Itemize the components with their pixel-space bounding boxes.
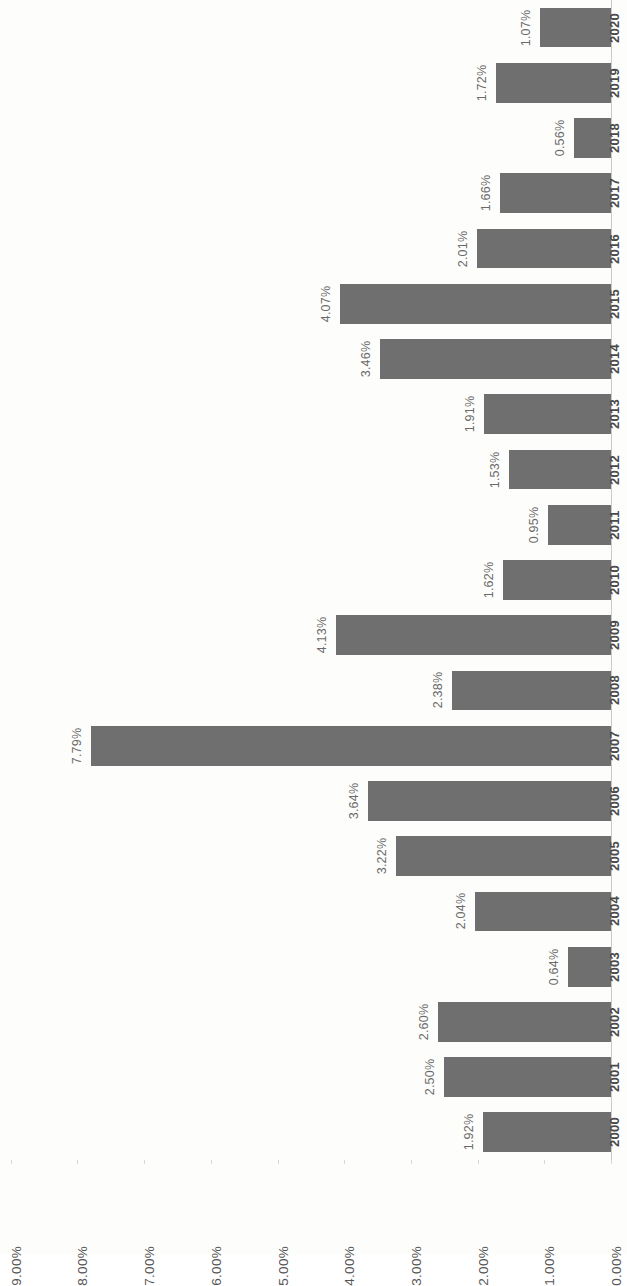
category-label-2015: 2015 [607, 289, 622, 319]
bar-row: 3.64%2006 [0, 781, 627, 821]
tick-label-3-00pct: 3.00% [408, 1246, 423, 1286]
bar-value-label-2005: 3.22% [375, 838, 389, 874]
category-label-2013: 2013 [607, 399, 622, 429]
category-label-2011: 2011 [607, 510, 622, 539]
bar-row: 1.92%2000 [0, 1112, 627, 1152]
tick-label-9-00pct: 9.00% [8, 1246, 23, 1286]
bar-value-label-2010: 1.62% [482, 562, 496, 598]
bar-value-label-2019: 1.72% [475, 65, 489, 101]
category-label-2009: 2009 [607, 620, 622, 650]
bar-2009 [336, 615, 611, 655]
bar-row: 1.53%2012 [0, 450, 627, 490]
bar-2008 [452, 671, 611, 711]
bar-2007 [91, 726, 611, 766]
category-label-2016: 2016 [607, 233, 622, 263]
bar-row: 0.64%2003 [0, 947, 627, 987]
bar-value-label-2015: 4.07% [319, 286, 333, 322]
bar-2010 [503, 560, 611, 600]
bar-2002 [438, 1002, 611, 1042]
tick-label-0-00pct: 0.00% [609, 1246, 624, 1286]
bar-value-label-2018: 0.56% [553, 120, 567, 156]
bar-2003 [568, 947, 611, 987]
bar-value-label-2014: 3.46% [359, 341, 373, 377]
tick-mark [344, 1160, 345, 1164]
bar-value-label-2020: 1.07% [519, 9, 533, 45]
tick-label-7-00pct: 7.00% [142, 1246, 157, 1286]
bar-row: 1.72%2019 [0, 63, 627, 103]
category-label-2003: 2003 [607, 952, 622, 982]
category-label-2006: 2006 [607, 786, 622, 816]
category-label-2018: 2018 [607, 123, 622, 153]
bar-row: 1.91%2013 [0, 394, 627, 434]
plot-area: 1.07%20201.72%20190.56%20181.66%20172.01… [0, 0, 627, 1160]
bar-value-label-2000: 1.92% [462, 1114, 476, 1150]
tick-mark [611, 1160, 612, 1164]
bar-value-label-2001: 2.50% [423, 1059, 437, 1095]
bar-value-label-2004: 2.04% [454, 893, 468, 929]
tick-mark [478, 1160, 479, 1164]
tick-mark [144, 1160, 145, 1164]
bar-value-label-2016: 2.01% [456, 230, 470, 266]
bar-2011 [548, 505, 611, 545]
category-label-2007: 2007 [607, 731, 622, 761]
tick-mark [278, 1160, 279, 1164]
bar-2020 [540, 8, 611, 48]
bar-row: 3.22%2005 [0, 836, 627, 876]
bar-2015 [340, 284, 611, 324]
category-label-2014: 2014 [607, 344, 622, 374]
bar-row: 0.56%2018 [0, 118, 627, 158]
bar-2004 [475, 892, 611, 932]
bar-row: 2.01%2016 [0, 229, 627, 269]
bar-row: 2.04%2004 [0, 892, 627, 932]
category-label-2012: 2012 [607, 454, 622, 484]
bar-row: 3.46%2014 [0, 339, 627, 379]
bar-2001 [444, 1057, 611, 1097]
bar-row: 4.07%2015 [0, 284, 627, 324]
bar-2018 [574, 118, 611, 158]
category-label-2005: 2005 [607, 841, 622, 871]
tick-label-4-00pct: 4.00% [342, 1246, 357, 1286]
bar-row: 1.07%2020 [0, 8, 627, 48]
bar-2013 [484, 394, 611, 434]
category-label-2017: 2017 [607, 178, 622, 208]
category-label-2002: 2002 [607, 1007, 622, 1037]
bar-2000 [483, 1112, 611, 1152]
bar-row: 4.13%2009 [0, 615, 627, 655]
tick-label-1-00pct: 1.00% [542, 1246, 557, 1286]
tick-mark [11, 1160, 12, 1164]
tick-mark [211, 1160, 212, 1164]
bar-value-label-2002: 2.60% [417, 1004, 431, 1040]
bar-value-label-2012: 1.53% [488, 451, 502, 487]
category-label-2001: 2001 [607, 1062, 622, 1092]
bar-value-label-2008: 2.38% [431, 672, 445, 708]
tick-label-6-00pct: 6.00% [208, 1246, 223, 1286]
category-label-2008: 2008 [607, 675, 622, 705]
category-label-2004: 2004 [607, 896, 622, 926]
bar-row: 0.95%2011 [0, 505, 627, 545]
bar-2006 [368, 781, 611, 821]
tick-label-5-00pct: 5.00% [275, 1246, 290, 1286]
bar-2014 [380, 339, 611, 379]
category-label-2010: 2010 [607, 565, 622, 595]
tick-mark [544, 1160, 545, 1164]
bar-row: 7.79%2007 [0, 726, 627, 766]
bar-value-label-2017: 1.66% [479, 175, 493, 211]
bar-value-label-2009: 4.13% [315, 617, 329, 653]
bar-value-label-2007: 7.79% [70, 727, 84, 763]
value-axis-tick-strip: 9.00%8.00%7.00%6.00%5.00%4.00%3.00%2.00%… [0, 1160, 627, 1254]
bar-value-label-2011: 0.95% [527, 507, 541, 543]
bar-row: 1.62%2010 [0, 560, 627, 600]
tick-mark [411, 1160, 412, 1164]
bar-value-label-2006: 3.64% [347, 783, 361, 819]
bar-row: 2.38%2008 [0, 671, 627, 711]
bar-2019 [496, 63, 611, 103]
tick-mark [77, 1160, 78, 1164]
tick-label-8-00pct: 8.00% [75, 1246, 90, 1286]
category-label-2000: 2000 [607, 1117, 622, 1147]
tick-label-2-00pct: 2.00% [475, 1246, 490, 1286]
bar-row: 1.66%2017 [0, 173, 627, 213]
bar-2017 [500, 173, 611, 213]
bar-2016 [477, 229, 611, 269]
bar-row: 2.60%2002 [0, 1002, 627, 1042]
